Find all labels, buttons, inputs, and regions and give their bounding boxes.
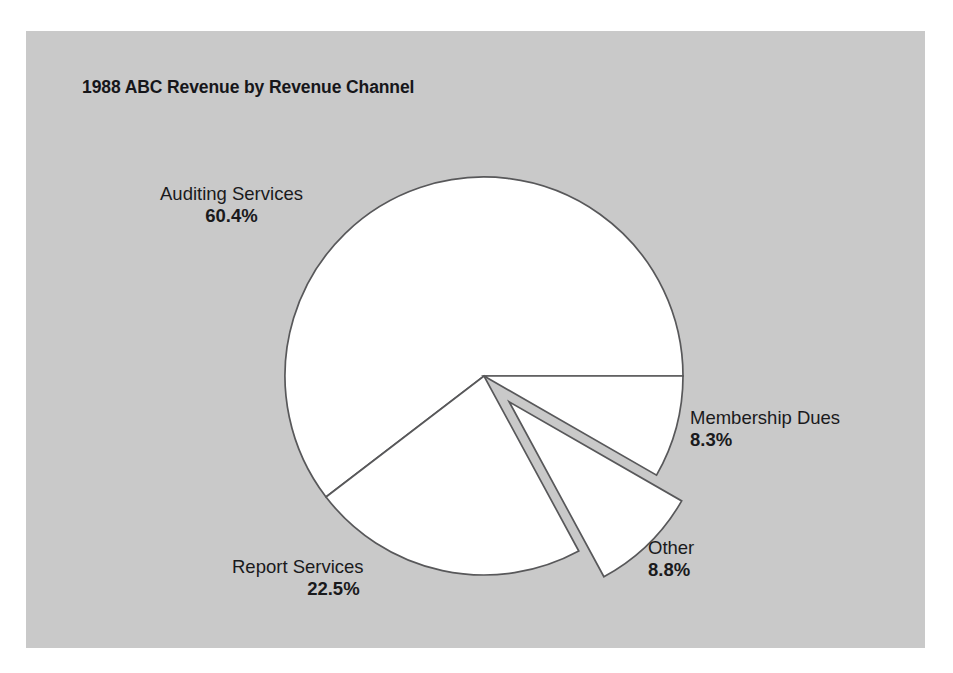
pie-label-other-value: 8.8%: [648, 559, 694, 581]
pie-slices: [285, 177, 683, 577]
chart-figure: 1988 ABC Revenue by Revenue Channel Audi…: [0, 0, 953, 673]
pie-label-other: Other 8.8%: [648, 537, 694, 581]
pie-label-auditing-services: Auditing Services 60.4%: [160, 183, 303, 227]
pie-label-other-name: Other: [648, 537, 694, 559]
pie-label-auditing-name: Auditing Services: [160, 183, 303, 205]
pie-label-membership-value: 8.3%: [690, 429, 840, 451]
pie-label-report-name: Report Services: [232, 556, 364, 578]
pie-label-membership-dues: Membership Dues 8.3%: [690, 407, 840, 451]
pie-chart: [0, 0, 953, 673]
pie-label-report-value: 22.5%: [232, 578, 364, 600]
pie-label-report-services: Report Services 22.5%: [232, 556, 364, 600]
pie-label-membership-name: Membership Dues: [690, 407, 840, 429]
pie-label-auditing-value: 60.4%: [160, 205, 303, 227]
